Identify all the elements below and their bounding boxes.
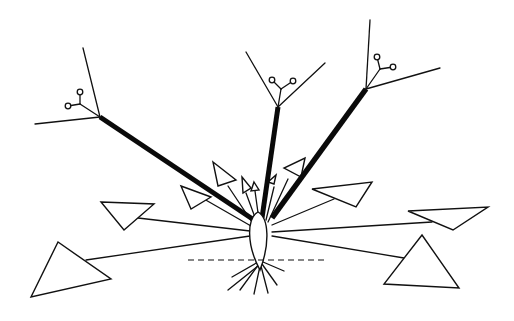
twig	[35, 117, 100, 124]
stem-base-bulb	[250, 212, 267, 270]
leaf-blade-triangle	[242, 177, 251, 193]
bud-circle-icon	[290, 78, 296, 84]
leaf-blade-triangle	[251, 182, 259, 191]
leaf-petiole	[272, 222, 432, 232]
leaf-blade-triangle	[213, 162, 236, 186]
bud-circle-icon	[269, 77, 275, 83]
bud-circle-icon	[77, 89, 83, 95]
twig	[366, 68, 440, 89]
diagram-canvas	[0, 0, 514, 321]
leaf-blade-triangle	[31, 242, 111, 297]
twig	[278, 63, 325, 107]
leaf-petiole	[138, 218, 250, 231]
bud-circle-icon	[65, 103, 71, 109]
leaf-far-right-large	[272, 235, 459, 288]
leaf-petiole	[86, 236, 250, 260]
roots-group	[228, 262, 284, 294]
twig	[83, 48, 100, 117]
bud-circle-icon	[390, 64, 396, 70]
leaf-blade-triangle	[384, 235, 459, 288]
plant-architecture-diagram	[0, 0, 514, 321]
shoot-middle	[246, 52, 325, 218]
leaf-blade-triangle	[312, 182, 372, 207]
shoots-group	[35, 20, 440, 220]
stem-base-group	[250, 212, 267, 270]
bud-circle-icon	[374, 54, 380, 60]
leaf-petiole	[272, 236, 404, 258]
leaf-blade-triangle	[408, 207, 488, 230]
leaf-blade-triangle	[101, 202, 154, 230]
leaf-right-upper	[272, 182, 372, 225]
shoot-left	[35, 48, 254, 220]
leaf-far-left-large	[31, 236, 250, 297]
twig	[366, 20, 370, 89]
leaf-left-mid	[101, 202, 250, 231]
